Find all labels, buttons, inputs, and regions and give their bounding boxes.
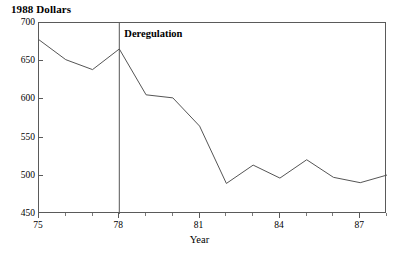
y-axis-tick-label: 450 — [9, 208, 35, 218]
x-axis-minor-tick-mark — [306, 213, 307, 216]
y-axis-tick-mark — [38, 98, 43, 99]
x-axis-minor-tick-mark — [386, 213, 387, 216]
x-axis-tick-mark — [359, 213, 360, 218]
x-axis-tick-label: 84 — [274, 220, 284, 230]
plot-area — [38, 22, 386, 213]
y-axis-tick-label: 700 — [9, 17, 35, 27]
x-axis-tick-label: 87 — [354, 220, 364, 230]
x-axis-minor-tick-mark — [252, 213, 253, 216]
x-axis-title: Year — [0, 234, 399, 245]
x-axis-minor-tick-mark — [92, 213, 93, 216]
y-axis-tick-label: 600 — [9, 93, 35, 103]
chart-screenshot: 1988 Dollars 450500550600650700 Deregula… — [0, 0, 399, 254]
y-axis-tick-mark — [38, 175, 43, 176]
y-axis-tick-mark — [38, 60, 43, 61]
x-axis-tick-mark — [38, 213, 39, 218]
x-axis-minor-tick-mark — [225, 213, 226, 216]
x-axis-tick-label: 81 — [194, 220, 204, 230]
x-axis-tick-mark — [279, 213, 280, 218]
data-series-line — [39, 40, 387, 184]
y-axis-tick-label: 550 — [9, 132, 35, 142]
y-axis-tick-label: 650 — [9, 55, 35, 65]
x-axis-tick-mark — [199, 213, 200, 218]
x-axis-tick-mark — [118, 213, 119, 218]
x-axis-minor-tick-mark — [332, 213, 333, 216]
x-axis-tick-label: 78 — [114, 220, 124, 230]
y-axis-tick-mark — [38, 137, 43, 138]
deregulation-annotation-label: Deregulation — [124, 28, 182, 39]
x-axis-tick-label: 75 — [33, 220, 43, 230]
x-axis-minor-tick-mark — [145, 213, 146, 216]
x-axis-minor-tick-mark — [172, 213, 173, 216]
plot-svg — [39, 23, 387, 214]
x-axis-minor-tick-mark — [65, 213, 66, 216]
y-axis-tick-label: 500 — [9, 170, 35, 180]
y-axis-labels: 450500550600650700 — [5, 0, 35, 254]
